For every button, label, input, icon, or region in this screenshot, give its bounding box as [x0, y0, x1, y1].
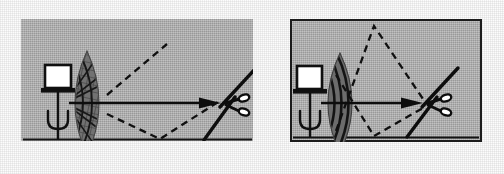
upper-scatter-ray: [107, 44, 167, 95]
panel-right-label: [292, 21, 293, 22]
wavefront-lens: [318, 50, 363, 142]
scissors-ring-lower: [440, 107, 452, 117]
panel-right-artwork: [290, 19, 482, 142]
scissors-ring-lower: [238, 107, 250, 117]
panel-left-label: [21, 19, 22, 20]
scissors-blade-upper: [422, 68, 458, 107]
figure-root: [0, 0, 504, 174]
panel-left-artwork: [21, 19, 253, 141]
wavefront-lens: [65, 49, 121, 141]
scissors-ring-upper: [238, 93, 250, 103]
transmitter-box: [297, 66, 322, 89]
transmitter-on-mast: [293, 66, 327, 137]
scissors-ring-upper: [440, 93, 452, 103]
panel-focused-beam-propagation: [290, 19, 482, 142]
transmitter-box: [45, 65, 71, 88]
panel-diffuse-scattered-propagation: [21, 19, 253, 141]
